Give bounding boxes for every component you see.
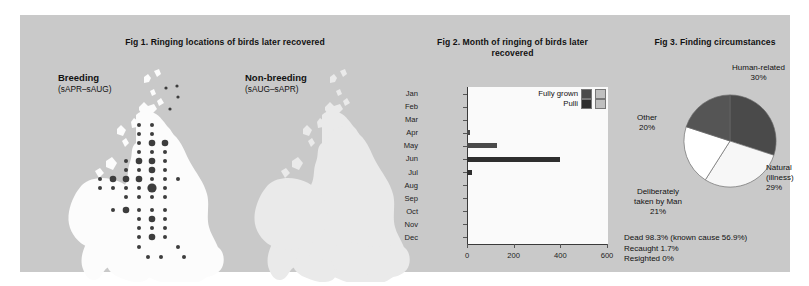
fig2-y-label-feb: Feb	[378, 102, 418, 111]
fig2-bar-jul-pulli	[467, 170, 472, 175]
fig2-x-tick-label-0: 0	[452, 251, 482, 260]
fig2-y-tick	[463, 94, 467, 95]
fig2-y-tick	[463, 211, 467, 212]
legend-swatch-dark-fully-grown	[581, 89, 592, 99]
fig2-bar-may-fully-grown	[467, 143, 497, 148]
pie-label-pct: 21%	[612, 207, 704, 217]
fig2-x-tick-label-200: 200	[499, 251, 529, 260]
legend-label-pulli: Pulli	[563, 99, 578, 108]
fig2-y-tick	[463, 120, 467, 121]
pie-label-pct: 20%	[624, 123, 670, 133]
fate-line: Recaught 1.7%	[624, 244, 747, 255]
pie-label-pct: 30%	[706, 73, 809, 83]
fig2-x-tick-600	[607, 244, 608, 248]
fig1-title: Fig 1. Ringing locations of birds later …	[60, 37, 390, 48]
fig2-plot-area	[467, 87, 608, 244]
fate-summary-text: Dead 98.3% (known cause 56.9%)Recaught 1…	[624, 233, 747, 265]
legend-swatch-light-fully-grown	[595, 89, 606, 99]
landmass-shapes	[68, 69, 223, 282]
legend-item-fully-grown: Fully grown	[480, 89, 606, 98]
pie-label-line: taken by Man	[612, 197, 704, 207]
fig2-y-label-dec: Dec	[378, 233, 418, 242]
pie-label-line: Human-related	[706, 63, 809, 73]
fig2-y-label-apr: Apr	[378, 128, 418, 137]
legend-label-fully-grown: Fully grown	[538, 89, 578, 98]
fig3-title: Fig 3. Finding circumstances	[620, 37, 809, 48]
pie-label-line: (illness)	[766, 173, 809, 183]
fig2-y-label-oct: Oct	[378, 207, 418, 216]
fig2-y-label-jun: Jun	[378, 154, 418, 163]
fig2-x-tick-0	[467, 244, 468, 248]
breeding-map-svg	[62, 67, 227, 282]
fig2-y-label-may: May	[378, 141, 418, 150]
fig2-title: Fig 2. Month of ringing of birds later r…	[420, 37, 605, 59]
fig2-y-tick	[463, 185, 467, 186]
fig2-y-tick	[463, 107, 467, 108]
legend-swatch-dark-pulli	[581, 99, 592, 109]
pie-label-line: Deliberately	[612, 187, 704, 197]
fig2-y-label-jul: Jul	[378, 168, 418, 177]
fig2-y-tick	[463, 198, 467, 199]
fig2-y-label-mar: Mar	[378, 115, 418, 124]
fig2-bar-apr-fully-grown	[467, 130, 470, 135]
pie-label-human-related: Human-related30%	[706, 63, 809, 83]
pie-svg	[682, 93, 778, 189]
pie-label-line: Other	[624, 113, 670, 123]
pie-label-line: Natural	[766, 163, 809, 173]
fate-line: Dead 98.3% (known cause 56.9%)	[624, 233, 747, 244]
pie-label-deliberately-taken: Deliberatelytaken by Man21%	[612, 187, 704, 217]
fig2-y-tick	[463, 224, 467, 225]
figure-panel-root: Fig 1. Ringing locations of birds later …	[0, 0, 809, 286]
pie-label-natural: Natural(illness)29%	[766, 163, 809, 193]
pie-label-pct: 29%	[766, 183, 809, 193]
fig2-legend: Fully grown Pulli	[480, 89, 606, 109]
fig2-x-tick-label-600: 600	[592, 251, 622, 260]
breeding-distribution-map	[62, 67, 227, 282]
fig2-x-tick-label-400: 400	[545, 251, 575, 260]
legend-item-pulli: Pulli	[480, 99, 606, 108]
fig3-pie-chart: Human-related30% Natural(illness)29% Del…	[620, 55, 809, 270]
fig2-y-tick	[463, 237, 467, 238]
legend-swatch-light-pulli	[595, 99, 606, 109]
fig2-x-axis	[467, 244, 607, 245]
pie-label-other: Other20%	[624, 113, 670, 133]
fig2-bar-chart: Fully grown Pulli JanFebMarAprMayJunJulA…	[420, 75, 620, 275]
figure-panel: Fig 1. Ringing locations of birds later …	[20, 15, 790, 272]
fate-line: Resighted 0%	[624, 254, 747, 265]
fig2-bar-jun-pulli	[467, 157, 560, 162]
fig2-x-tick-400	[560, 244, 561, 248]
fig2-y-label-aug: Aug	[378, 181, 418, 190]
fig2-x-tick-200	[514, 244, 515, 248]
fig2-y-label-sep: Sep	[378, 194, 418, 203]
fig2-y-label-jan: Jan	[378, 89, 418, 98]
fig2-y-label-nov: Nov	[378, 220, 418, 229]
